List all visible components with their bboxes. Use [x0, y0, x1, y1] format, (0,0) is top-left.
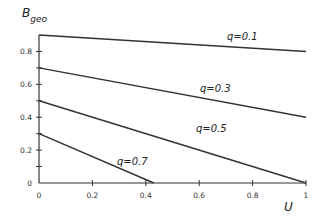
- series-label: q=0.5: [196, 123, 227, 134]
- y-tick-label: 0.8: [20, 47, 32, 56]
- x-tick-label: 0.2: [86, 191, 98, 200]
- x-tick-label: 0.8: [247, 191, 259, 200]
- series-label: q=0.1: [227, 31, 258, 42]
- y-axis-title: Bgeo: [22, 6, 47, 24]
- chart: 00.20.40.60.800.20.40.60.81 q=0.1q=0.3q=…: [0, 0, 322, 222]
- y-axis-title-subscript: geo: [30, 14, 47, 24]
- series-line: [39, 35, 306, 51]
- x-axis-title: U: [284, 200, 293, 214]
- axes: 00.20.40.60.800.20.40.60.81: [20, 35, 309, 200]
- series-lines: [39, 35, 306, 183]
- y-tick-label: 0.6: [20, 80, 32, 89]
- series-line: [39, 68, 306, 117]
- y-tick-label: 0.2: [20, 146, 32, 155]
- x-tick-label: 0.4: [140, 191, 152, 200]
- y-tick-label: 0.4: [20, 113, 32, 122]
- series-line: [39, 101, 306, 183]
- series-label: q=0.7: [117, 156, 148, 167]
- x-tick-label: 0.6: [193, 191, 205, 200]
- y-tick-label: 0: [27, 179, 32, 188]
- x-tick-label: 1: [304, 191, 309, 200]
- x-tick-label: 0: [37, 191, 42, 200]
- series-label: q=0.3: [200, 83, 231, 94]
